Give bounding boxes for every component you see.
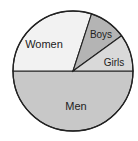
label-boys: Boys: [90, 29, 112, 40]
label-girls: Girls: [104, 57, 125, 68]
label-women: Women: [25, 38, 63, 50]
pie-chart: Women Boys Girls Men: [0, 0, 138, 141]
label-men: Men: [65, 100, 86, 112]
